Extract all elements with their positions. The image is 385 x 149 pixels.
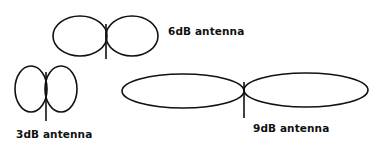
pattern-9db	[122, 73, 368, 118]
pattern-3db-right-lobe	[45, 66, 77, 112]
pattern-9db-right-lobe	[244, 73, 368, 107]
pattern-6db-left-lobe	[53, 16, 107, 56]
pattern-6db-right-lobe	[106, 16, 158, 56]
label-3db-antenna: 3dB antenna	[16, 128, 92, 140]
pattern-9db-left-lobe	[122, 74, 244, 108]
pattern-3db-left-lobe	[15, 66, 47, 112]
label-9db-antenna: 9dB antenna	[253, 122, 329, 134]
label-6db-antenna: 6dB antenna	[168, 25, 244, 37]
pattern-3db	[15, 66, 77, 121]
pattern-6db	[53, 16, 158, 59]
